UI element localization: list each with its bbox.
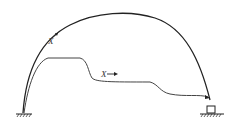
arrow-icon xyxy=(114,72,118,76)
arch-diagram: X X xyxy=(0,0,242,130)
arch-force-marker: X xyxy=(47,33,58,46)
inner-curve xyxy=(24,58,208,113)
inner-force-label: X xyxy=(100,69,107,79)
left-support xyxy=(16,114,32,117)
right-support xyxy=(200,106,224,117)
inner-force-marker: X xyxy=(100,69,118,79)
outer-arch xyxy=(23,13,210,113)
